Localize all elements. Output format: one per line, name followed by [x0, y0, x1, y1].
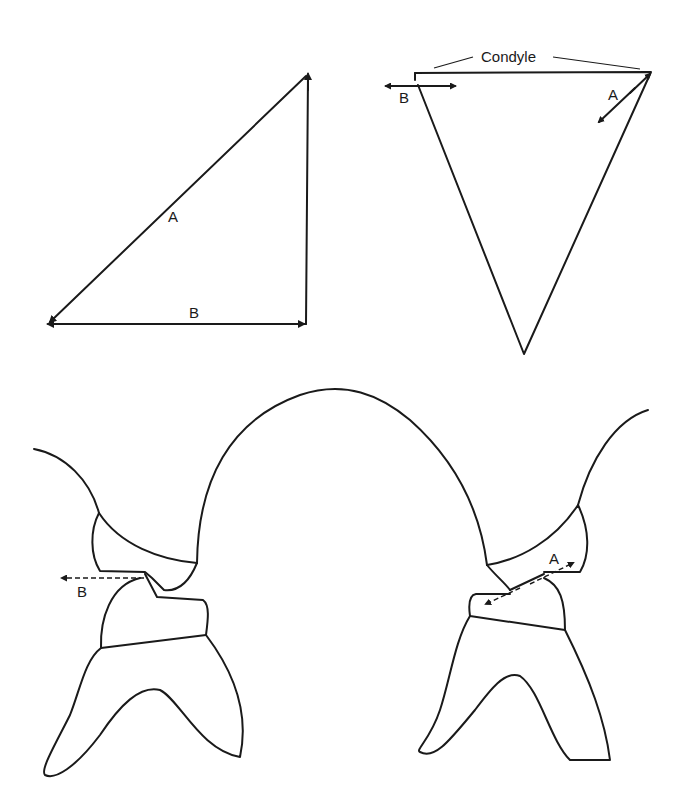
- arrow-a-up: [630, 74, 650, 93]
- arrow-a-down: [486, 588, 520, 604]
- vertical-side: [306, 75, 308, 324]
- condyle-label: Condyle: [481, 48, 536, 65]
- inverted-triangle: [415, 72, 651, 354]
- left-upper-gum-curve: [34, 449, 99, 513]
- label-b: B: [77, 583, 87, 600]
- left-lower-root: [44, 635, 243, 776]
- left-upper-crown-top: [99, 513, 197, 563]
- label-a: A: [608, 86, 618, 103]
- label-b: B: [189, 304, 199, 321]
- right-contact-edge: [510, 574, 544, 590]
- right-tooth-contact: A: [419, 410, 648, 760]
- right-upper-crown: [487, 505, 587, 572]
- right-triangle-diagram: A B: [48, 74, 308, 324]
- label-a: A: [549, 550, 559, 567]
- right-upper-gum-curve: [578, 410, 648, 505]
- condyle-triangle-diagram: Condyle B A: [386, 48, 651, 354]
- arch-outline: [197, 389, 487, 565]
- condyle-leader-left: [434, 57, 473, 68]
- left-tooth-contact: B: [34, 449, 243, 776]
- left-lower-crown-top: [145, 574, 208, 635]
- right-upper-crown-cusp: [487, 565, 510, 590]
- hypotenuse-arrow-a: [50, 76, 306, 322]
- condyle-leader-right: [553, 57, 640, 69]
- diagram-canvas: A B Condyle B A B: [0, 0, 683, 800]
- label-b: B: [399, 89, 409, 106]
- palate-arch: [197, 389, 487, 565]
- label-a: A: [168, 208, 178, 225]
- right-lower-root: [419, 616, 610, 760]
